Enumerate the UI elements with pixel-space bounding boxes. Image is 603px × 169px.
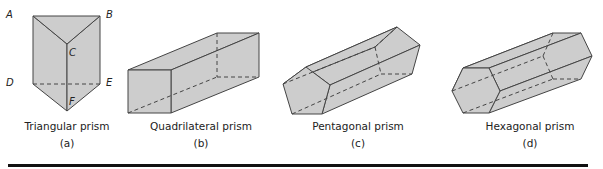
sublabel-c: (c) (351, 137, 365, 149)
sublabel-d: (d) (523, 137, 538, 149)
triangular-prism-shape: A B C D E F (5, 9, 113, 111)
vertex-label-a: A (5, 9, 13, 20)
quadrilateral-prism-shape (128, 33, 259, 113)
pentagonal-prism-shape (283, 27, 420, 114)
vertex-label-e: E (106, 77, 113, 88)
sublabel-b: (b) (194, 137, 209, 149)
caption-pentagonal-prism: Pentagonal prism (312, 120, 404, 132)
vertex-label-c: C (69, 47, 76, 58)
hexagonal-prism-shape (452, 33, 592, 113)
bottom-rule (8, 164, 588, 167)
prisms-diagram: A B C D E F (0, 0, 603, 169)
vertex-label-f: F (69, 96, 75, 107)
sublabel-a: (a) (60, 137, 75, 149)
vertex-label-b: B (106, 9, 113, 20)
vertex-label-d: D (6, 77, 14, 88)
caption-hexagonal-prism: Hexagonal prism (486, 120, 575, 132)
caption-triangular-prism: Triangular prism (24, 120, 109, 132)
caption-quadrilateral-prism: Quadrilateral prism (150, 120, 252, 132)
